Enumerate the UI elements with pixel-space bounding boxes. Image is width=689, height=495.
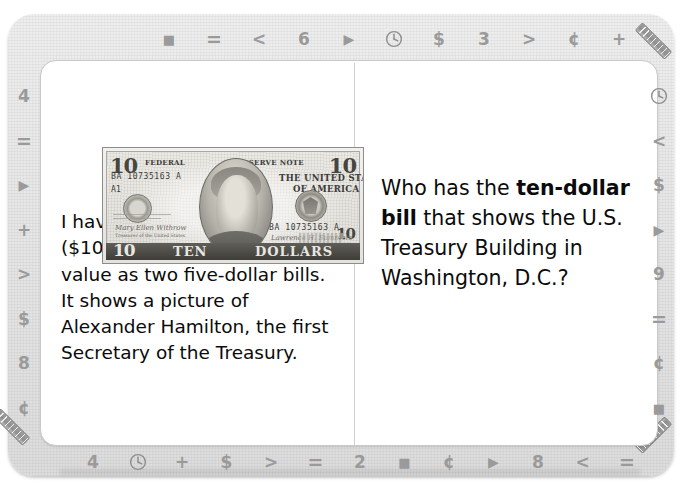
2-icon: 2 bbox=[354, 454, 366, 471]
8-icon: 8 bbox=[18, 355, 30, 372]
bill-word-ten: TEN bbox=[173, 244, 207, 259]
cent-icon: ¢ bbox=[568, 31, 580, 48]
plus-icon: + bbox=[17, 221, 31, 238]
cent-icon: ¢ bbox=[653, 355, 665, 372]
ruler-icon-top-right bbox=[635, 22, 672, 59]
greater-than-icon: > bbox=[17, 266, 31, 283]
bill-serial-bottom: BA 10735163 A bbox=[269, 223, 339, 232]
triangle-icon: ▶ bbox=[344, 32, 355, 46]
triangle-icon: ▶ bbox=[19, 178, 30, 192]
less-than-icon: < bbox=[652, 132, 666, 149]
less-than-icon: < bbox=[252, 31, 266, 48]
8-icon: 8 bbox=[532, 454, 544, 471]
dollar-icon: $ bbox=[433, 31, 445, 48]
greater-than-icon: > bbox=[522, 31, 536, 48]
bill-signature-left-title: Treasurer of the United States bbox=[115, 233, 185, 238]
bill-federal-text: FEDERAL bbox=[145, 158, 185, 167]
cent-icon: ¢ bbox=[18, 399, 30, 416]
bill-microprint-line-1 bbox=[113, 214, 171, 215]
card-page: 10 10 10 10 FEDERAL RESERVE NOTE THE UNI… bbox=[40, 60, 658, 446]
4-icon: 4 bbox=[87, 454, 99, 471]
triangle-icon: ▶ bbox=[654, 223, 665, 237]
bill-signature-left: Mary Ellen Withrow bbox=[115, 224, 187, 232]
square-icon: ■ bbox=[398, 456, 410, 469]
equals-icon: = bbox=[206, 30, 222, 49]
dollar-icon: $ bbox=[653, 177, 665, 194]
question-part-1: Who has the bbox=[381, 176, 516, 200]
triangle-icon: ▶ bbox=[488, 455, 499, 469]
equals-icon: = bbox=[308, 453, 324, 472]
bill-plate-code: A1 bbox=[111, 185, 121, 194]
square-icon: ■ bbox=[653, 401, 665, 414]
6-icon: 6 bbox=[298, 31, 310, 48]
ten-dollar-bill-image: 10 10 10 10 FEDERAL RESERVE NOTE THE UNI… bbox=[102, 147, 364, 264]
card-drop-shadow bbox=[60, 470, 640, 477]
equals-icon: = bbox=[619, 453, 635, 472]
clock-icon bbox=[385, 30, 403, 48]
bill-country-line-1: THE UNITED STATES bbox=[279, 173, 364, 183]
square-icon: ■ bbox=[163, 33, 175, 46]
question-part-2: that shows the U.S. Treasury Building in… bbox=[381, 206, 623, 290]
bill-serial-top: BA 10735163 A bbox=[111, 172, 181, 181]
4-icon: 4 bbox=[18, 88, 30, 105]
less-than-icon: < bbox=[575, 454, 589, 471]
bill-word-dollars: DOLLARS bbox=[255, 244, 333, 259]
bill-treasury-seal bbox=[295, 190, 327, 222]
bill-portrait-alexander-hamilton bbox=[199, 158, 273, 256]
3-icon: 3 bbox=[478, 31, 490, 48]
plus-icon: + bbox=[175, 454, 189, 471]
equals-icon: = bbox=[651, 309, 667, 328]
clock-icon bbox=[129, 453, 147, 471]
bill-denomination-bottom-left: 10 bbox=[113, 240, 135, 260]
clock-icon bbox=[650, 87, 668, 105]
greater-than-icon: > bbox=[264, 454, 278, 471]
dollar-icon: $ bbox=[18, 310, 30, 327]
dollar-icon: $ bbox=[221, 454, 233, 471]
cent-icon: ¢ bbox=[443, 454, 455, 471]
bill-microprint-line-2 bbox=[113, 218, 161, 219]
equals-icon: = bbox=[16, 131, 32, 150]
right-panel-question: Who has the ten-dollar bill that shows t… bbox=[381, 173, 649, 294]
9-icon: 9 bbox=[653, 266, 665, 283]
plus-icon: + bbox=[612, 31, 626, 48]
money-card-frame: 10 10 10 10 FEDERAL RESERVE NOTE THE UNI… bbox=[8, 14, 674, 476]
